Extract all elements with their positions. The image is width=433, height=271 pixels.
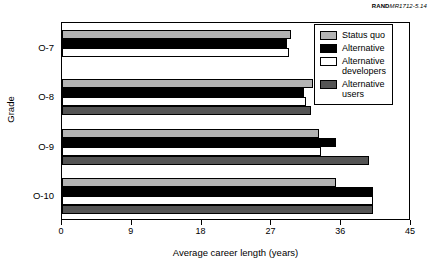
x-tick-label-18: 18	[196, 226, 206, 236]
legend-swatch-icon-usr	[320, 80, 337, 89]
y-tick-o-10: O-10	[33, 190, 54, 201]
legend-item-alternative: Alternative	[320, 43, 386, 53]
bar-group-o-10	[62, 172, 409, 222]
x-tick-label-27: 27	[265, 226, 275, 236]
y-axis-title: Grade	[5, 80, 16, 140]
bar-o-8-alternative	[62, 88, 304, 97]
bar-o-8-alternative-developers	[62, 97, 306, 106]
rand-report-number: MR1712-5.14	[390, 3, 427, 9]
x-tick-mark-36	[340, 220, 341, 225]
legend-label: Status quo	[342, 30, 385, 40]
rand-credit-line: RANDMR1712-5.14	[372, 3, 427, 9]
bar-o-7-alternative	[62, 39, 287, 48]
bar-o-9-alternative	[62, 138, 336, 147]
legend-item-alternative-users: Alternative users	[320, 79, 386, 99]
x-tick-mark-27	[270, 220, 271, 225]
bar-o-10-alternative-developers	[62, 196, 373, 205]
bar-o-9-alternative-developers	[62, 147, 321, 156]
legend-item-status-quo: Status quo	[320, 30, 386, 40]
bar-o-10-alternative	[62, 187, 373, 196]
bar-o-9-status-quo	[62, 129, 319, 138]
x-tick-mark-18	[201, 220, 202, 225]
y-tick-o-7: O-7	[38, 41, 54, 52]
x-tick-label-36: 36	[335, 226, 345, 236]
y-tick-o-9: O-9	[38, 140, 54, 151]
legend-label: Alternative developers	[342, 56, 386, 76]
bar-o-10-alternative-users	[62, 205, 373, 214]
x-tick-label-45: 45	[405, 226, 415, 236]
x-tick-mark-9	[131, 220, 132, 225]
legend: Status quoAlternativeAlternative develop…	[314, 24, 393, 105]
legend-label: Alternative	[342, 43, 385, 53]
x-tick-label-0: 0	[58, 226, 63, 236]
legend-label: Alternative users	[342, 79, 385, 99]
bar-group-o-9	[62, 122, 409, 172]
legend-swatch-icon-sq	[320, 31, 337, 40]
bar-o-7-status-quo	[62, 30, 291, 39]
legend-swatch-icon-alt	[320, 44, 337, 53]
x-tick-mark-0	[61, 220, 62, 225]
legend-item-alternative-developers: Alternative developers	[320, 56, 386, 76]
bar-o-7-alternative-developers	[62, 48, 289, 57]
bar-o-9-alternative-users	[62, 156, 369, 165]
x-tick-label-9: 9	[128, 226, 133, 236]
bar-o-10-status-quo	[62, 178, 336, 187]
x-axis-title: Average career length (years)	[61, 247, 410, 258]
chart-figure: RANDMR1712-5.14 O-7O-8O-9O-10 0918273645…	[0, 0, 433, 271]
bar-o-8-status-quo	[62, 79, 313, 88]
x-tick-mark-45	[410, 220, 411, 225]
y-tick-o-8: O-8	[38, 91, 54, 102]
bar-o-8-alternative-users	[62, 106, 311, 115]
legend-swatch-icon-dev	[320, 57, 337, 66]
rand-brand: RAND	[372, 3, 390, 9]
